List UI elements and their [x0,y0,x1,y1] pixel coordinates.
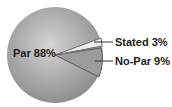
label-nopar: No-Par 9% [115,55,170,67]
label-stated: Stated 3% [115,36,168,48]
label-par: Par 88% [13,47,56,59]
